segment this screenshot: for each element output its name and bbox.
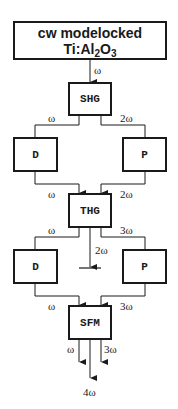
arrow-d2-to-sfm bbox=[35, 284, 79, 305]
delay-label-1: D bbox=[32, 149, 39, 161]
line-shg-to-d1 bbox=[35, 116, 79, 137]
label-p2-to-sfm: 3ω bbox=[120, 301, 133, 312]
polarization-label-1: P bbox=[141, 149, 148, 161]
fourth-harmonic-generation-diagram: cw modelocked Ti:Al2O3 SHG D P THG D P S… bbox=[0, 0, 178, 409]
label-p1-to-thg: 2ω bbox=[120, 189, 133, 200]
source-line-2: Ti:Al2O3 bbox=[64, 41, 117, 57]
arrow-d1-to-thg bbox=[35, 172, 79, 193]
thg-label: THG bbox=[80, 205, 100, 217]
polarization-box-2: P bbox=[122, 249, 167, 284]
delay-box-2: D bbox=[13, 249, 58, 284]
label-thg-to-d2: ω bbox=[48, 225, 55, 236]
label-shg-to-p1: 2ω bbox=[120, 113, 133, 124]
source-formula-o: O bbox=[100, 41, 111, 57]
delay-box-1: D bbox=[13, 137, 58, 172]
laser-source-box: cw modelocked Ti:Al2O3 bbox=[13, 21, 167, 60]
line-thg-to-d2 bbox=[35, 228, 79, 249]
label-d1-to-thg: ω bbox=[48, 189, 55, 200]
sfm-box: SFM bbox=[68, 305, 112, 340]
source-formula-ti-al: Ti:Al bbox=[64, 41, 95, 57]
polarization-box-1: P bbox=[122, 137, 167, 172]
label-thg-dump: 2ω bbox=[95, 245, 108, 256]
label-thg-to-p2: 3ω bbox=[120, 225, 133, 236]
label-sfm-out-omega: ω bbox=[67, 344, 74, 355]
thg-box: THG bbox=[68, 193, 112, 228]
label-d2-to-sfm: ω bbox=[48, 301, 55, 312]
label-source-to-shg: ω bbox=[94, 65, 101, 76]
shg-box: SHG bbox=[68, 82, 112, 116]
label-shg-to-d1: ω bbox=[48, 113, 55, 124]
shg-label: SHG bbox=[80, 93, 100, 105]
source-line-1: cw modelocked bbox=[38, 25, 142, 41]
label-sfm-out-4omega: 4ω bbox=[83, 387, 96, 398]
source-formula-sub-3: 3 bbox=[111, 48, 117, 59]
label-sfm-out-3omega: 3ω bbox=[104, 344, 117, 355]
sfm-label: SFM bbox=[80, 317, 100, 329]
polarization-label-2: P bbox=[141, 261, 148, 273]
delay-label-2: D bbox=[32, 261, 39, 273]
